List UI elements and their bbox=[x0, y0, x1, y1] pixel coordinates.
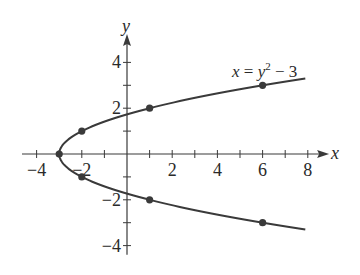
data-point bbox=[78, 173, 85, 180]
y-axis-label: y bbox=[120, 16, 130, 36]
x-tick-label: 2 bbox=[168, 160, 177, 180]
x-tick-label: 4 bbox=[213, 160, 222, 180]
x-tick-label: −4 bbox=[27, 160, 46, 180]
data-point bbox=[146, 105, 153, 112]
data-point bbox=[146, 196, 153, 203]
y-tick-label: 4 bbox=[112, 52, 121, 72]
x-axis-label: x bbox=[330, 143, 339, 163]
parabola-chart: −4−2246842−2−4 x y x = y2 − 3 bbox=[0, 0, 360, 275]
data-point bbox=[259, 82, 266, 89]
equation-var: y bbox=[256, 62, 266, 81]
equation-label: x = y2 − 3 bbox=[231, 60, 297, 81]
y-tick-label: −4 bbox=[102, 236, 121, 256]
data-point bbox=[259, 219, 266, 226]
equation-equals: = bbox=[240, 62, 258, 81]
x-tick-label: 8 bbox=[303, 160, 312, 180]
x-tick-label: 6 bbox=[258, 160, 267, 180]
data-point bbox=[78, 128, 85, 135]
equation-rest: − 3 bbox=[271, 62, 298, 81]
y-tick-label: −2 bbox=[102, 190, 121, 210]
y-tick-label: 2 bbox=[112, 98, 121, 118]
data-point bbox=[56, 150, 63, 157]
